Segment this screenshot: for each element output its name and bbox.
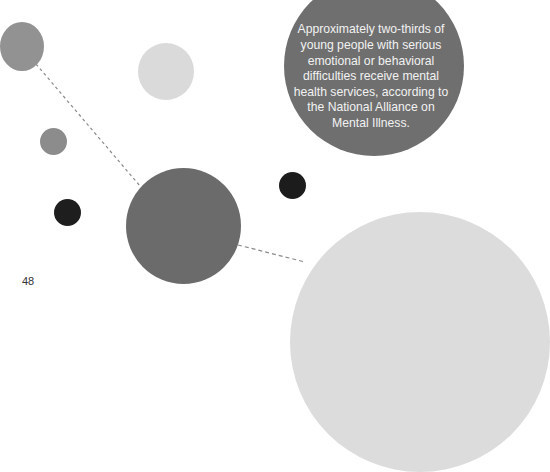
page-number: 48 xyxy=(22,275,34,287)
light-circle-top xyxy=(138,43,194,100)
dark-circle-right xyxy=(279,172,306,199)
dark-circle-left xyxy=(54,199,81,226)
gray-circle-top-left xyxy=(0,22,44,71)
gray-circle-small xyxy=(40,128,67,155)
large-center-circle xyxy=(126,168,241,284)
quote-text: Approximately two-thirds of young people… xyxy=(291,22,451,131)
light-circle-bottom-right xyxy=(290,212,550,472)
